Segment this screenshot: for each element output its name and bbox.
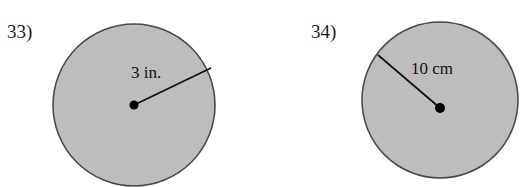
problem-number-34: 34) [311, 22, 336, 41]
center-dot-33 [130, 101, 139, 110]
circle-shape-34 [362, 22, 518, 178]
problem-33-circle-diagram [0, 0, 300, 187]
dimension-label-33: 3 in. [131, 64, 161, 81]
worksheet-page: in. Include the correct units. 33) 3 in.… [0, 0, 527, 187]
center-dot-34 [435, 103, 445, 113]
dimension-label-34: 10 cm [411, 60, 453, 77]
problem-33-figure [0, 0, 300, 187]
problem-number-33: 33) [7, 22, 32, 41]
